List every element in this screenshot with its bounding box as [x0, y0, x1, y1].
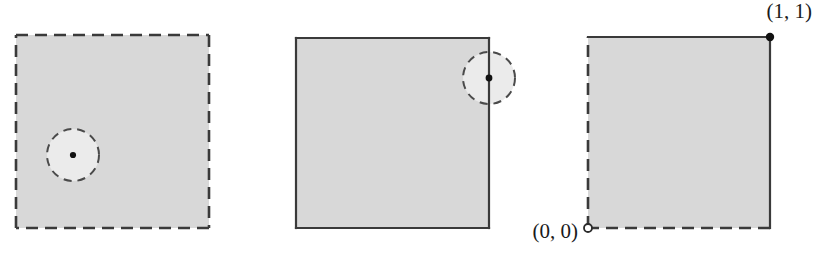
- closed-square-fill: [296, 38, 489, 228]
- point-one-one-label: (1, 1): [767, 0, 813, 23]
- closed-square-panel: [296, 38, 515, 228]
- open-square-fill: [16, 35, 209, 228]
- three-squares-diagram: (1, 1) (0, 0): [0, 0, 820, 262]
- boundary-point-center-dot: [486, 75, 493, 82]
- point-one-one-marker: [766, 33, 774, 41]
- point-zero-zero-marker: [584, 224, 592, 232]
- half-open-square-panel: (1, 1) (0, 0): [533, 0, 813, 243]
- half-open-square-fill: [588, 37, 770, 228]
- point-zero-zero-label: (0, 0): [533, 219, 579, 243]
- open-square-panel: [16, 35, 209, 228]
- interior-point-center-dot: [70, 152, 76, 158]
- figure-root: (1, 1) (0, 0): [0, 0, 820, 262]
